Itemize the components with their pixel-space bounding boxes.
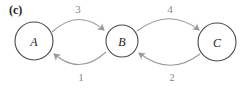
panel-label: (c) (9, 3, 22, 17)
edge-c-to-b-label: 2 (169, 71, 175, 83)
node-b: B (106, 25, 138, 57)
node-b-label: B (118, 35, 126, 49)
edge-a-to-b: 3 (52, 3, 104, 32)
edge-c-to-b: 2 (139, 53, 200, 83)
node-a: A (15, 22, 53, 60)
edge-b-to-c-label: 4 (167, 3, 173, 15)
edge-b-to-a-arrow (54, 52, 106, 65)
node-a-label: A (29, 35, 38, 49)
edge-b-to-a: 1 (54, 52, 106, 83)
edge-b-to-a-label: 1 (78, 71, 84, 83)
edge-b-to-c-arrow (137, 19, 199, 31)
node-c-label: C (213, 36, 222, 50)
edge-c-to-b-arrow (139, 53, 200, 65)
edge-b-to-c: 4 (137, 3, 199, 31)
state-diagram: (c) A B C 3 1 4 2 (0, 0, 246, 89)
edge-a-to-b-arrow (52, 19, 104, 32)
node-c: C (198, 23, 236, 61)
edge-a-to-b-label: 3 (75, 3, 81, 15)
